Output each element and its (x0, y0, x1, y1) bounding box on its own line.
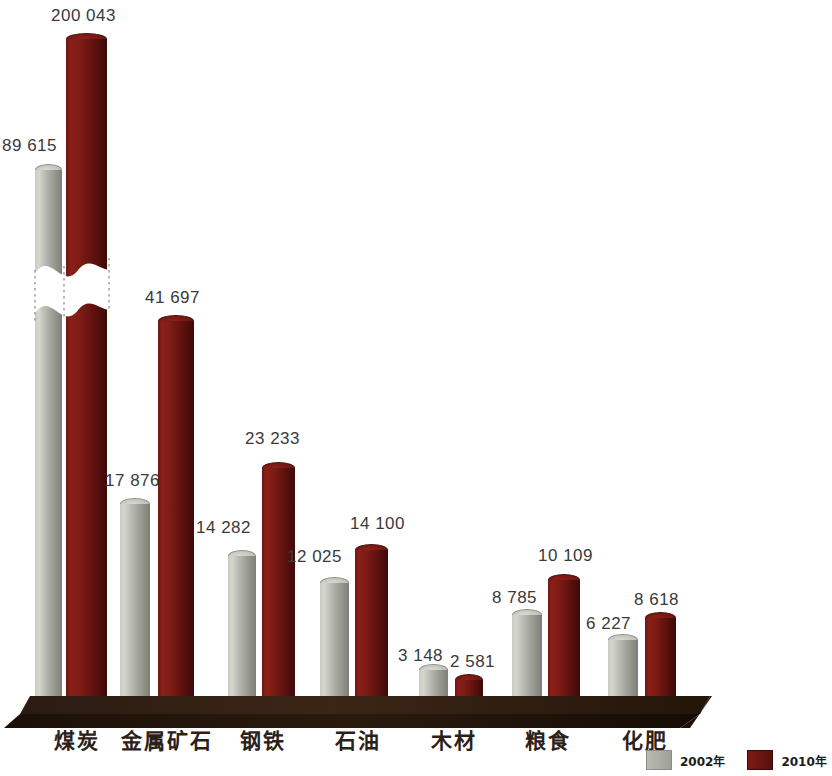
value-label-2002-3: 12 025 (287, 547, 342, 567)
bar-2002-1 (120, 498, 150, 710)
category-label-0: 煤炭 (32, 724, 122, 754)
category-label-1: 金属矿石 (112, 724, 222, 754)
value-label-2010-2: 23 233 (245, 429, 300, 449)
bar-body (355, 550, 388, 710)
bar-body (120, 504, 150, 710)
value-label-2010-5: 10 109 (538, 546, 593, 566)
bar-2010-3 (355, 544, 388, 710)
value-label-2010-1: 41 697 (145, 288, 200, 308)
bar-body (66, 39, 107, 710)
bar-body (158, 321, 194, 710)
bar-body (548, 580, 580, 710)
category-label-5: 粮食 (503, 724, 593, 754)
chart-legend: 2002年 2010年 (646, 750, 832, 770)
bar-2010-5 (548, 574, 580, 710)
legend-label-2002: 2002年 (680, 752, 725, 769)
value-label-2010-6: 8 618 (634, 590, 679, 610)
category-label-4: 木材 (409, 724, 499, 754)
value-label-2010-3: 14 100 (350, 514, 405, 534)
bar-2010-1 (158, 315, 194, 710)
category-label-2: 钢铁 (218, 724, 308, 754)
bar-body (320, 583, 349, 710)
value-label-2002-2: 14 282 (196, 518, 251, 538)
value-label-2002-5: 8 785 (492, 588, 537, 608)
value-label-2010-0: 200 043 (51, 6, 116, 26)
value-label-2002-0: 89 615 (2, 136, 57, 156)
bar-body (262, 468, 295, 710)
plot-area: 89 615 200 043 17 876 41 697 14 282 23 2… (0, 0, 794, 710)
bar-2010-0 (66, 33, 107, 710)
value-label-2002-6: 6 227 (586, 614, 631, 634)
bar-2002-2 (228, 550, 256, 710)
legend-swatch-2010 (747, 750, 773, 770)
bar-2002-3 (320, 577, 349, 710)
value-label-2010-4: 2 581 (450, 652, 495, 672)
bar-body (228, 556, 256, 710)
category-label-3: 石油 (313, 724, 403, 754)
legend-label-2010: 2010年 (781, 752, 826, 769)
bar-2010-2 (262, 462, 295, 710)
value-label-2002-4: 3 148 (398, 646, 443, 666)
axis-break (24, 240, 124, 340)
legend-swatch-2002 (646, 750, 672, 770)
value-label-2002-1: 17 876 (105, 471, 160, 491)
